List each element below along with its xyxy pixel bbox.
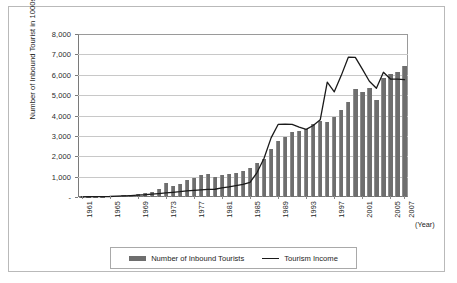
x-tick-label: 1997	[337, 201, 346, 218]
x-tick-label: 2007	[407, 201, 416, 218]
bar	[318, 121, 322, 197]
x-tick-label: 1969	[141, 201, 150, 218]
x-tick-mark	[334, 196, 335, 199]
x-tick-mark	[166, 196, 167, 199]
bar	[290, 132, 294, 197]
bar	[121, 195, 125, 197]
bar	[93, 197, 97, 198]
bar	[332, 117, 336, 197]
line-swatch-icon	[262, 258, 279, 259]
x-tick-mark	[362, 196, 363, 199]
y-tick-label: 3,000	[52, 131, 71, 140]
x-tick-label: 1961	[85, 201, 94, 218]
x-tick-mark	[194, 196, 195, 199]
chart-figure: Number of Inbound Tourist in 1000s -1,00…	[8, 6, 445, 272]
x-tick-mark	[390, 196, 391, 199]
bar	[213, 177, 217, 197]
x-tick-label: 1981	[225, 201, 234, 218]
plot-wrapper	[78, 34, 408, 197]
x-tick-mark	[82, 196, 83, 199]
bar	[128, 195, 132, 197]
gridline	[78, 116, 408, 117]
legend-label-tourism-income: Tourism Income	[284, 254, 338, 263]
bar	[241, 171, 245, 197]
bar	[206, 174, 210, 197]
bar	[269, 149, 273, 197]
x-tick-label: 1965	[113, 201, 122, 218]
bar	[114, 196, 118, 197]
bar	[185, 180, 189, 197]
bar	[367, 88, 371, 197]
y-tick-label: -	[68, 193, 71, 202]
gridline	[78, 136, 408, 137]
bar	[262, 159, 266, 197]
bar	[374, 100, 378, 197]
gridline	[78, 95, 408, 96]
x-tick-label: 2001	[365, 201, 374, 218]
bar	[304, 129, 308, 197]
y-tick-label: 2,000	[52, 152, 71, 161]
legend-item-tourism-income[interactable]: Tourism Income	[262, 254, 338, 263]
bar	[248, 168, 252, 197]
bar	[150, 192, 154, 197]
y-tick-label: 8,000	[52, 30, 71, 39]
legend-item-inbound-tourists[interactable]: Number of Inbound Tourists	[129, 254, 244, 263]
y-tick-label: 1,000	[52, 172, 71, 181]
bar	[199, 175, 203, 197]
bar-swatch-icon	[129, 256, 146, 261]
x-tick-label: 1989	[281, 201, 290, 218]
chart-legend: Number of Inbound Tourists Tourism Incom…	[110, 247, 357, 269]
x-tick-label: 2005	[393, 201, 402, 218]
gridline	[78, 75, 408, 76]
x-tick-mark	[250, 196, 251, 199]
x-tick-mark	[278, 196, 279, 199]
y-axis-ticks: -1,0002,0003,0004,0005,0006,0007,0008,00…	[9, 34, 75, 197]
x-tick-mark	[138, 196, 139, 199]
bar	[100, 197, 104, 198]
x-axis-title: (Year)	[415, 220, 435, 229]
bar	[381, 78, 385, 197]
bar	[255, 163, 259, 197]
x-axis-ticks: 1961196519691973197719811985198919931997…	[78, 199, 408, 241]
y-tick-mark	[75, 197, 78, 198]
x-tick-mark	[404, 196, 405, 199]
bar	[86, 197, 90, 198]
bar	[402, 66, 406, 197]
bar	[283, 137, 287, 197]
bar	[346, 102, 350, 197]
legend-label-inbound-tourists: Number of Inbound Tourists	[151, 254, 244, 263]
x-tick-mark	[222, 196, 223, 199]
bar	[339, 110, 343, 197]
bar	[227, 174, 231, 197]
x-tick-mark	[110, 196, 111, 199]
bar	[178, 184, 182, 197]
x-tick-label: 1985	[253, 201, 262, 218]
bar	[220, 175, 224, 197]
bar	[360, 92, 364, 197]
bar	[143, 193, 147, 197]
bar	[276, 141, 280, 197]
bar	[395, 72, 399, 197]
bar	[171, 186, 175, 197]
bar	[311, 124, 315, 197]
y-tick-label: 7,000	[52, 50, 71, 59]
bar	[157, 189, 161, 197]
bar	[297, 131, 301, 197]
gridline	[78, 54, 408, 55]
gridline	[78, 156, 408, 157]
bar	[164, 183, 168, 197]
bar	[234, 173, 238, 197]
x-tick-label: 1977	[197, 201, 206, 218]
bar	[353, 89, 357, 197]
y-tick-label: 5,000	[52, 91, 71, 100]
x-tick-label: 1993	[309, 201, 318, 218]
x-tick-label: 1973	[169, 201, 178, 218]
y-tick-label: 6,000	[52, 70, 71, 79]
bar	[325, 122, 329, 197]
x-tick-mark	[306, 196, 307, 199]
y-tick-label: 4,000	[52, 111, 71, 120]
bar	[192, 178, 196, 197]
bar	[388, 74, 392, 197]
